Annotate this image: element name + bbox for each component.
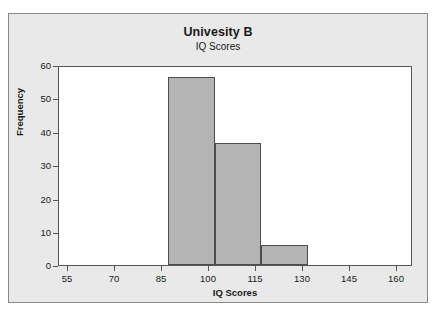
x-tick-label-145: 145 [334, 273, 364, 284]
x-tick-label-85: 85 [146, 273, 176, 284]
plot-area [58, 66, 412, 266]
histogram-bar [261, 245, 308, 265]
histogram-bar [168, 77, 215, 265]
y-tick-label-60: 60 [25, 61, 51, 71]
y-tick-label-10: 10 [25, 228, 51, 238]
chart-title: Univesity B [9, 25, 427, 39]
y-tick-label-0: 0 [25, 261, 51, 271]
x-tick-mark-85 [161, 266, 162, 271]
x-tick-mark-70 [114, 266, 115, 271]
x-tick-mark-160 [396, 266, 397, 271]
x-tick-mark-55 [67, 266, 68, 271]
y-tick-label-50: 50 [25, 94, 51, 104]
y-tick-mark-0 [53, 266, 58, 267]
x-axis-title: IQ Scores [58, 287, 412, 298]
x-tick-label-70: 70 [99, 273, 129, 284]
chart-subtitle: IQ Scores [9, 41, 427, 52]
y-tick-label-30: 30 [25, 161, 51, 171]
x-tick-label-160: 160 [381, 273, 411, 284]
x-tick-mark-100 [208, 266, 209, 271]
histogram-bar [215, 143, 262, 265]
x-tick-label-55: 55 [52, 273, 82, 284]
histogram-figure: Univesity B IQ Scores Frequency 0 10 20 … [0, 0, 441, 317]
x-tick-mark-130 [302, 266, 303, 271]
y-tick-label-40: 40 [25, 128, 51, 138]
x-tick-mark-115 [255, 266, 256, 271]
bars-container [59, 67, 411, 265]
x-tick-label-130: 130 [287, 273, 317, 284]
x-tick-label-115: 115 [240, 273, 270, 284]
x-tick-label-100: 100 [193, 273, 223, 284]
y-tick-label-20: 20 [25, 195, 51, 205]
y-axis-title: Frequency [14, 88, 25, 136]
x-tick-mark-145 [349, 266, 350, 271]
